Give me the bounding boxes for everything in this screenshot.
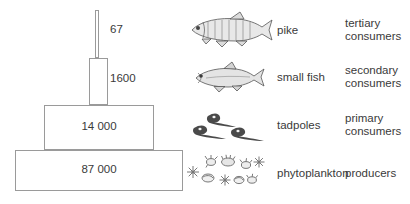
- phytoplankton-illustration: [186, 150, 276, 196]
- organism-name-phytoplankton: phytoplankton: [277, 167, 349, 179]
- small-fish-illustration: [186, 56, 276, 98]
- organism-name-small-fish: small fish: [277, 71, 325, 83]
- trophic-label-line1: producers: [345, 167, 409, 180]
- tadpoles-illustration: [186, 104, 276, 146]
- trophic-label-line1: primary: [345, 112, 409, 125]
- organism-name-tadpoles: tadpoles: [277, 119, 320, 131]
- trophic-label-producers: producers: [345, 167, 409, 180]
- trophic-label-line2: consumers: [345, 30, 409, 43]
- pike-illustration: [186, 8, 276, 50]
- trophic-label-secondary: secondary consumers: [345, 64, 409, 90]
- pyramid-value-tertiary: 67: [110, 23, 123, 35]
- trophic-label-line2: consumers: [345, 125, 409, 138]
- pyramid-value-secondary: 1600: [110, 72, 136, 84]
- pyramid-bar-secondary: [89, 58, 108, 105]
- trophic-label-line2: consumers: [345, 77, 409, 90]
- trophic-label-line1: tertiary: [345, 17, 409, 30]
- trophic-label-tertiary: tertiary consumers: [345, 17, 409, 43]
- pyramid-of-numbers-figure: 67 pike: [0, 0, 410, 204]
- trophic-label-line1: secondary: [345, 64, 409, 77]
- trophic-label-primary: primary consumers: [345, 112, 409, 138]
- pyramid-bar-tertiary: [95, 10, 99, 58]
- organism-name-pike: pike: [277, 24, 298, 36]
- pyramid-value-producers: 87 000: [15, 163, 183, 175]
- pyramid-value-primary: 14 000: [44, 120, 154, 132]
